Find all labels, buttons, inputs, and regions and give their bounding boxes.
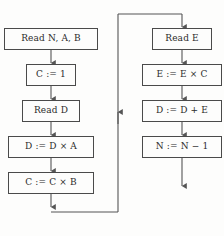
node-label: Read E (165, 34, 199, 44)
node-label: Read D (34, 106, 68, 116)
node-label: E := E × C (156, 70, 207, 80)
node-n-assign-n-minus-1: N := N − 1 (142, 136, 222, 158)
node-label: D := D + E (156, 106, 208, 116)
node-read-e: Read E (152, 28, 212, 50)
node-label: D := D × A (25, 142, 77, 152)
flowchart-diagram: Read N, A, B C := 1 Read D D := D × A C … (0, 0, 224, 236)
node-label: C := C × B (25, 178, 76, 188)
node-e-assign-e-times-c: E := E × C (142, 64, 222, 86)
node-label: C := 1 (36, 70, 66, 80)
node-label: Read N, A, B (21, 34, 81, 44)
node-label: N := N − 1 (156, 142, 209, 152)
node-c-assign-1: C := 1 (26, 64, 76, 86)
node-read-d: Read D (22, 100, 80, 122)
node-d-assign-d-times-a: D := D × A (8, 136, 94, 158)
node-read-n-a-b: Read N, A, B (4, 28, 98, 50)
node-d-assign-d-plus-e: D := D + E (142, 100, 222, 122)
node-c-assign-c-times-b: C := C × B (8, 172, 94, 194)
